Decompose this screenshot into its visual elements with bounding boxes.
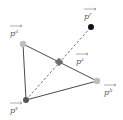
point-s xyxy=(23,97,29,103)
svg-text:ps: ps xyxy=(10,105,18,115)
edge-s-b xyxy=(26,81,97,100)
point-r xyxy=(88,24,94,30)
svg-text:pz: pz xyxy=(76,56,84,66)
point-a xyxy=(20,41,26,47)
label-p-b: pb xyxy=(104,84,116,97)
label-p-a: pa xyxy=(10,25,22,38)
svg-text:pr: pr xyxy=(84,11,92,21)
triangle-diagram: pr pa pz pb ps xyxy=(0,0,123,120)
label-p-z: pz xyxy=(76,53,88,66)
label-p-r: pr xyxy=(84,8,96,21)
svg-text:pb: pb xyxy=(104,87,112,97)
point-b xyxy=(94,78,100,84)
edge-a-s xyxy=(23,44,26,100)
svg-text:pa: pa xyxy=(10,28,18,38)
label-p-s: ps xyxy=(10,102,22,115)
